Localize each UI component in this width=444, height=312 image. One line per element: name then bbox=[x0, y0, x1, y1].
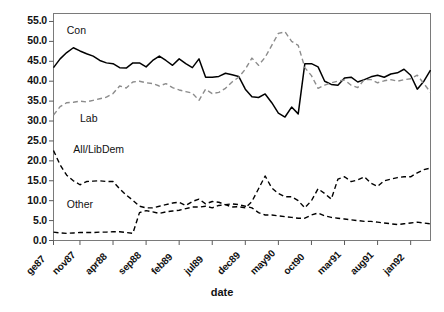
y-tick-label: 35.0 bbox=[6, 94, 47, 106]
series-line-other bbox=[54, 204, 431, 233]
x-axis-title: date bbox=[0, 286, 444, 298]
y-tick-label: 25.0 bbox=[6, 134, 47, 146]
y-tick-label: 20.0 bbox=[6, 154, 47, 166]
series-line-all-libdem bbox=[54, 151, 431, 208]
y-tick-label: 15.0 bbox=[6, 174, 47, 186]
series-label-lab: Lab bbox=[80, 112, 98, 124]
series-label-other: Other bbox=[67, 198, 93, 210]
figure-container: 0.05.010.015.020.025.030.035.040.045.050… bbox=[0, 0, 444, 312]
y-tick-label: 5.0 bbox=[6, 214, 47, 226]
y-tick-label: 10.0 bbox=[6, 194, 47, 206]
series-label-all-libdem: All/LibDem bbox=[73, 143, 124, 155]
plot-frame bbox=[54, 14, 431, 241]
y-tick-label: 0.0 bbox=[6, 234, 47, 246]
series-label-con: Con bbox=[67, 24, 86, 36]
y-tick-label: 55.0 bbox=[6, 14, 47, 26]
y-tick-label: 40.0 bbox=[6, 74, 47, 86]
caption-fragment bbox=[0, 305, 444, 312]
y-tick-label: 30.0 bbox=[6, 114, 47, 126]
data-series-group bbox=[54, 32, 431, 234]
series-line-con bbox=[54, 48, 431, 117]
y-tick-label: 45.0 bbox=[6, 54, 47, 66]
y-tick-label: 50.0 bbox=[6, 34, 47, 46]
series-line-lab bbox=[54, 32, 431, 115]
axis-ticks bbox=[49, 21, 411, 245]
